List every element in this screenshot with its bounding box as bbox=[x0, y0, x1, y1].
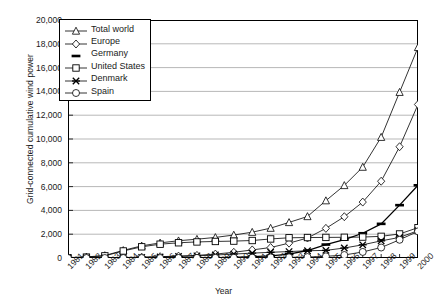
x-tick-label: 1999 bbox=[397, 251, 417, 271]
legend-label: United States bbox=[89, 62, 145, 71]
legend-label: Denmark bbox=[89, 74, 128, 83]
legend-marker-diamond-icon bbox=[63, 36, 89, 48]
x-tick-label: 1998 bbox=[378, 251, 398, 271]
chart-figure: Grid-connected cumulative wind power 02,… bbox=[0, 0, 435, 305]
x-tick-label: 1981 bbox=[65, 251, 85, 271]
x-tick-label: 1986 bbox=[157, 251, 177, 271]
data-point bbox=[73, 65, 79, 71]
x-tick-label: 1995 bbox=[323, 251, 343, 271]
x-tick-label: 1989 bbox=[212, 251, 232, 271]
legend-item: Total world bbox=[63, 23, 145, 35]
x-tick-label: 1987 bbox=[176, 251, 196, 271]
legend-label: Total world bbox=[89, 25, 134, 34]
legend-item: Denmark bbox=[63, 73, 145, 85]
data-point bbox=[72, 78, 80, 84]
x-tick-label: 1984 bbox=[120, 251, 140, 271]
x-tick-label: 1985 bbox=[139, 251, 159, 271]
x-tick-label: 1994 bbox=[304, 251, 324, 271]
x-tick-label: 1988 bbox=[194, 251, 214, 271]
x-axis-title: Year bbox=[0, 286, 435, 296]
legend-label: Germany bbox=[89, 49, 128, 58]
legend-item: Spain bbox=[63, 85, 145, 97]
legend-marker-circle-icon bbox=[63, 85, 89, 97]
legend-marker-triangle-icon bbox=[63, 23, 89, 35]
x-axis-title-text: Year bbox=[215, 286, 232, 296]
x-tick-label: 1992 bbox=[268, 251, 288, 271]
legend-item: Europe bbox=[63, 35, 145, 47]
legend-item: United States bbox=[63, 60, 145, 72]
data-point bbox=[72, 55, 81, 58]
x-tick-label: 1990 bbox=[231, 251, 251, 271]
legend-marker-square-icon bbox=[63, 60, 89, 72]
data-point bbox=[72, 40, 79, 48]
data-point bbox=[73, 90, 80, 97]
x-tick-label: 1983 bbox=[102, 251, 122, 271]
legend-marker-cross-icon bbox=[63, 73, 89, 85]
x-tick-label: 1982 bbox=[83, 251, 103, 271]
legend-label: Europe bbox=[89, 37, 120, 46]
legend-label: Spain bbox=[89, 87, 114, 96]
legend-marker-line-icon bbox=[63, 48, 89, 60]
x-tick-label: 1993 bbox=[286, 251, 306, 271]
x-tick-label: 1991 bbox=[249, 251, 269, 271]
x-tick-label: 1996 bbox=[341, 251, 361, 271]
chart-legend: Total worldEuropeGermanyUnited StatesDen… bbox=[59, 19, 151, 101]
x-tick-label: 2000 bbox=[415, 251, 435, 271]
legend-item: Germany bbox=[63, 48, 145, 60]
x-tick-label: 1997 bbox=[360, 251, 380, 271]
